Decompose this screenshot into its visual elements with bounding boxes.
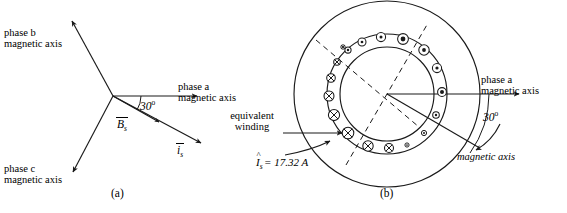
phase-c-axis-label: phase c magnetic axis	[4, 164, 62, 186]
current-magnitude-label: ^Is= 17.32 A	[256, 157, 308, 171]
angle-label-a: 30o	[140, 99, 155, 113]
caption-a: (a)	[111, 188, 124, 200]
phase-a-label-line2: magnetic axis	[178, 92, 236, 103]
winding-dot-conductor	[438, 88, 447, 97]
angle-value-b: 30	[483, 111, 495, 123]
equivalent-winding-line2: winding	[235, 121, 269, 132]
winding-cross-conductor	[324, 91, 334, 101]
winding-cross-conductor	[334, 59, 341, 66]
winding-dot-conductor	[358, 38, 366, 46]
phase-a-label-line1: phase a	[178, 81, 209, 92]
winding-dot-conductor	[398, 34, 409, 45]
phase-b-label-line1: phase b	[4, 27, 36, 38]
figure-container: phase b magnetic axis phase a magnetic a…	[0, 0, 567, 213]
phase-a-axis-label-b: phase a magnetic axis	[481, 75, 539, 97]
phase-c-label-line1: phase c	[4, 163, 35, 174]
winding-dot-conductor	[345, 47, 351, 53]
phase-b-axis-label: phase b magnetic axis	[4, 28, 62, 50]
current-vector-label: is	[176, 143, 184, 160]
winding-dot-conductor	[432, 63, 441, 72]
current-subscript-a: s	[180, 150, 183, 159]
winding-conductors-into-page	[324, 45, 394, 153]
phase-c-label-line2: magnetic axis	[4, 174, 62, 185]
degree-sign-b: o	[495, 109, 499, 118]
winding-cross-conductor	[342, 127, 354, 139]
phase-a-label-b-line2: magnetic axis	[481, 85, 539, 96]
degree-sign-a: o	[152, 98, 156, 107]
winding-dot-conductor	[421, 130, 426, 135]
flux-density-subscript: s	[124, 124, 127, 133]
flux-density-vector-label: Bs	[116, 117, 128, 134]
phase-a-axis-label: phase a magnetic axis	[178, 82, 236, 104]
winding-dot-conductor	[433, 112, 440, 119]
phase-b-label-line2: magnetic axis	[4, 38, 62, 49]
angle-value-a: 30	[140, 100, 152, 112]
winding-cross-conductor	[363, 141, 373, 151]
resultant-magnetic-axis-label: magnetic axis	[457, 152, 515, 163]
equivalent-winding-label: equivalent winding	[221, 111, 283, 133]
caption-b: (b)	[380, 188, 393, 200]
winding-dot-conductor	[405, 143, 409, 147]
current-value: = 17.32 A	[263, 156, 309, 168]
phase-b-axis-line	[72, 21, 113, 96]
figure-vector-graphics	[0, 0, 567, 213]
angle-label-b: 30o	[483, 110, 498, 124]
winding-conductors-out-of-page	[345, 32, 447, 147]
phase-a-label-b-line1: phase a	[481, 74, 512, 85]
winding-cross-conductor	[327, 74, 336, 83]
equivalent-winding-line1: equivalent	[230, 110, 274, 121]
phase-c-axis-line	[73, 96, 113, 172]
winding-dot-conductor	[376, 32, 385, 41]
winding-cross-conductor	[328, 109, 339, 120]
winding-cross-conductor	[341, 45, 345, 49]
winding-dot-conductor	[419, 45, 429, 55]
winding-cross-conductor	[385, 144, 394, 153]
flux-density-symbol: B	[117, 118, 124, 130]
